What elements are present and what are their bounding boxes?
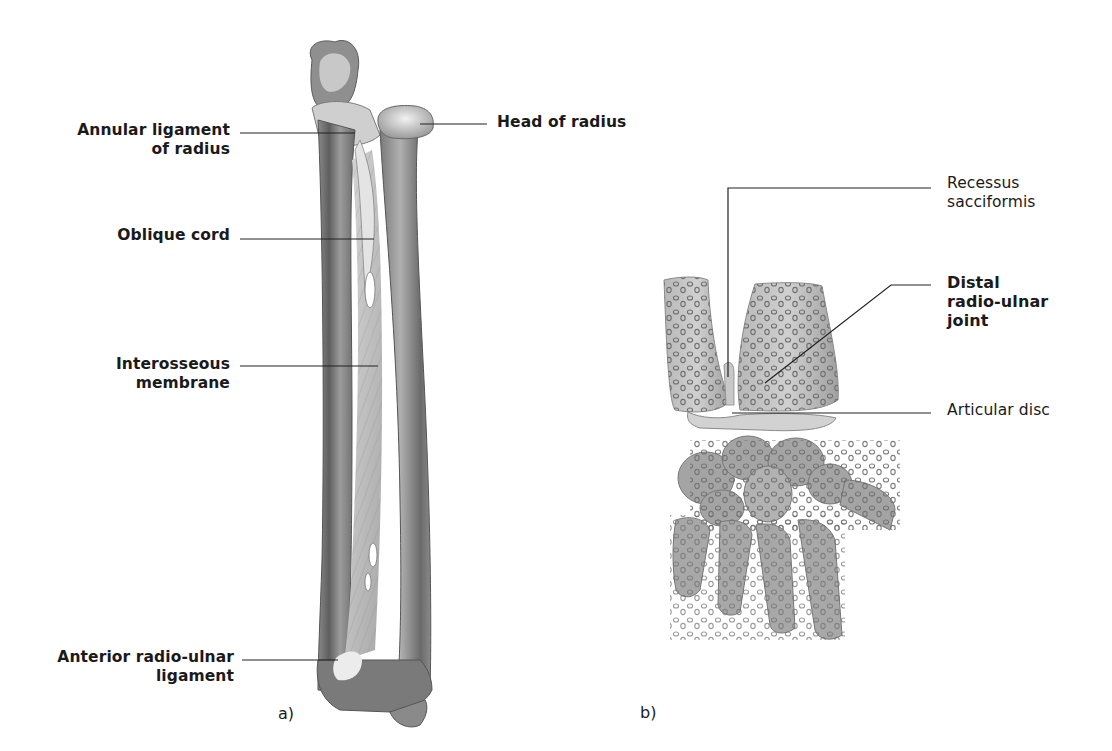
figure-b-caption: b) — [640, 703, 656, 722]
label-line: ligament — [57, 667, 234, 686]
label-line: Interosseous — [116, 355, 230, 374]
label-anterior-radio-ulnar-ligament: Anterior radio-ulnar ligament — [57, 648, 234, 686]
label-line: sacciformis — [947, 193, 1036, 212]
label-line: Head of radius — [497, 113, 626, 132]
figure-a-caption: a) — [278, 704, 294, 723]
metacarpal-bones — [670, 515, 845, 640]
label-interosseous-membrane: Interosseous membrane — [116, 355, 230, 393]
label-line: Oblique cord — [117, 226, 230, 245]
label-oblique-cord: Oblique cord — [117, 226, 230, 245]
forearm-bones — [310, 40, 433, 726]
label-line: membrane — [116, 374, 230, 393]
label-articular-disc: Articular disc — [947, 401, 1050, 420]
label-line: Articular disc — [947, 401, 1050, 420]
label-annular-ligament: Annular ligament of radius — [77, 121, 230, 159]
label-line: Annular ligament — [77, 121, 230, 140]
label-line: radio-ulnar — [947, 292, 1048, 311]
label-head-of-radius: Head of radius — [497, 113, 626, 132]
label-recessus-sacciformis: Recessus sacciformis — [947, 174, 1036, 212]
label-line: joint — [947, 311, 1048, 330]
wrist-bones — [664, 277, 900, 640]
label-line: of radius — [77, 140, 230, 159]
label-line: Recessus — [947, 174, 1036, 193]
label-line: Distal — [947, 273, 1048, 292]
label-line: Anterior radio-ulnar — [57, 648, 234, 667]
label-distal-radio-ulnar-joint: Distal radio-ulnar joint — [947, 273, 1048, 330]
